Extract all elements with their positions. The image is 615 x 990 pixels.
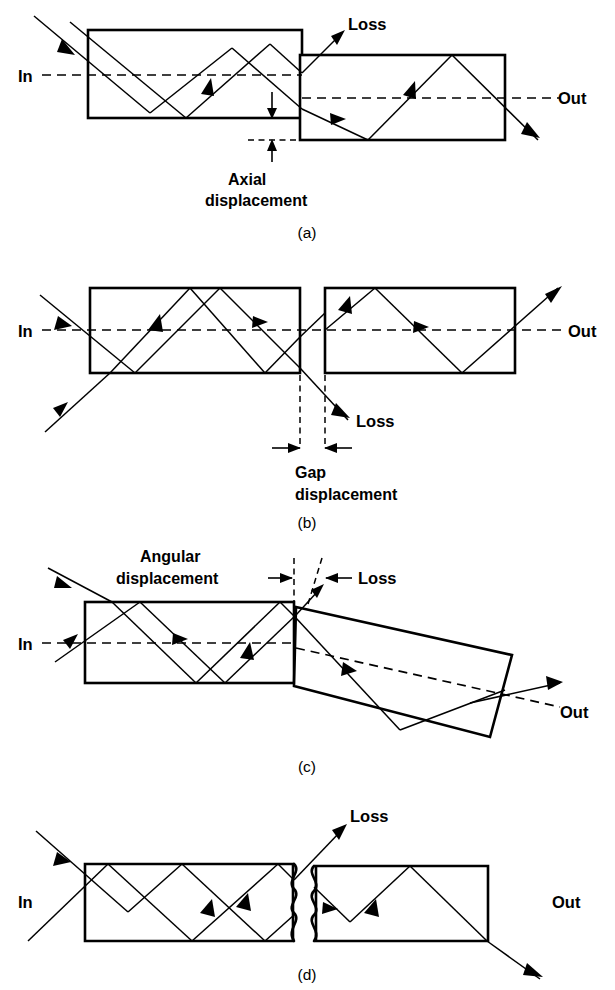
panel-d-right-fiber: [316, 866, 488, 941]
panel-a-letter: (a): [298, 224, 317, 241]
panel-c-label-loss: Loss: [358, 569, 397, 587]
panel-d-letter: (d): [298, 966, 317, 983]
panel-b-dim-label-2: displacement: [295, 486, 398, 503]
panel-b-label-out: Out: [568, 322, 597, 340]
panel-b-label-in: In: [18, 322, 33, 340]
panel-d-label-out: Out: [552, 893, 581, 911]
panel-a-label-in: In: [18, 67, 33, 85]
panel-a-label-loss: Loss: [348, 15, 387, 33]
panel-d-label-loss: Loss: [350, 807, 389, 825]
panel-b-dim-label-1: Gap: [295, 464, 326, 481]
panel-c-dim-label-2: displacement: [116, 570, 219, 587]
panel-a-dim-label-1: Axial: [228, 171, 266, 188]
panel-c-letter: (c): [298, 758, 316, 775]
panel-a-dim-label-2: displacement: [205, 192, 308, 209]
panel-c: In Out Loss Angular displacement (c): [18, 548, 589, 775]
figure-root: In Out Loss Axial displacement (a): [0, 0, 615, 990]
panel-d-label-in: In: [18, 893, 33, 911]
panel-a-left-fiber: [88, 30, 302, 118]
panel-c-dim-label-1: Angular: [140, 548, 200, 565]
fiber-loss-figure: In Out Loss Axial displacement (a): [0, 0, 615, 990]
panel-d: In Out Loss (d): [18, 807, 581, 983]
panel-c-left-fiber: [85, 602, 294, 683]
panel-c-label-out: Out: [560, 703, 589, 721]
panel-b-label-loss: Loss: [356, 412, 395, 430]
panel-a: In Out Loss Axial displacement (a): [18, 15, 587, 241]
panel-b-letter: (b): [298, 514, 317, 531]
panel-a-label-out: Out: [558, 89, 587, 107]
panel-c-label-in: In: [18, 635, 33, 653]
panel-b: In Out Loss Gap displacement (b): [18, 286, 597, 531]
